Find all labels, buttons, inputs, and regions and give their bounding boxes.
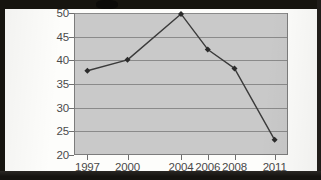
x-tick-label-2000: 2000 xyxy=(115,161,140,173)
x-tick-label-2011: 2011 xyxy=(263,161,287,173)
x-tick-label-2006: 2006 xyxy=(195,161,220,173)
y-tick-label-30: 30 xyxy=(57,102,69,114)
x-tick-mark-2000 xyxy=(128,155,129,160)
scan-band-right xyxy=(317,0,321,180)
x-tick-mark-2011 xyxy=(275,155,276,160)
scanned-page: 20253035404550 199720002004200620082011 xyxy=(5,9,317,171)
data-point-1997 xyxy=(84,68,90,74)
y-tick-label-35: 35 xyxy=(57,78,69,90)
y-tick-label-40: 40 xyxy=(57,54,69,66)
x-tick-mark-2006 xyxy=(208,155,209,160)
y-axis-labels: 20253035404550 xyxy=(41,13,69,155)
series-line xyxy=(87,14,274,140)
x-tick-label-2008: 2008 xyxy=(222,161,247,173)
y-tick-label-50: 50 xyxy=(57,7,69,19)
y-tick-label-25: 25 xyxy=(57,125,69,137)
y-tick-label-45: 45 xyxy=(57,31,69,43)
data-series xyxy=(74,13,288,155)
screenshot-root: 20253035404550 199720002004200620082011 xyxy=(0,0,321,180)
x-axis-labels: 199720002004200620082011 xyxy=(74,161,288,177)
x-tick-mark-1997 xyxy=(87,155,88,160)
x-tick-mark-2008 xyxy=(235,155,236,160)
data-point-2011 xyxy=(272,137,278,143)
y-tick-label-20: 20 xyxy=(57,149,69,161)
x-tick-label-2004: 2004 xyxy=(169,161,194,173)
scan-smudge xyxy=(96,0,118,9)
x-tick-label-1997: 1997 xyxy=(75,161,100,173)
x-tick-mark-2004 xyxy=(181,155,182,160)
scan-band-top xyxy=(0,0,321,9)
line-chart: 20253035404550 199720002004200620082011 xyxy=(5,9,317,171)
